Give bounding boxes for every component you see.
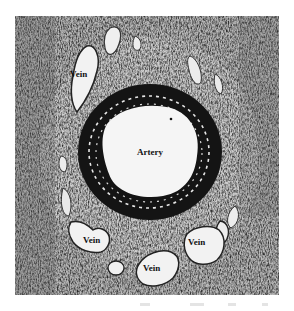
label-vein-lower-right: Vein	[188, 238, 205, 247]
caption-fragment	[140, 303, 150, 306]
micrograph-figure: Vein Artery Vein Vein Vein	[15, 16, 279, 295]
caption-fragment	[228, 303, 236, 306]
label-vein-upper-left: Vein	[70, 70, 87, 79]
caption-fragment	[190, 303, 204, 306]
label-artery: Artery	[137, 148, 163, 157]
label-vein-lower-middle: Vein	[143, 264, 160, 273]
caption-fragment	[262, 303, 268, 306]
label-vein-lower-left: Vein	[83, 236, 100, 245]
